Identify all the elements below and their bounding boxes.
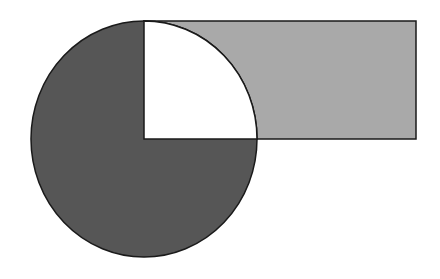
diagram-canvas [0, 0, 440, 279]
